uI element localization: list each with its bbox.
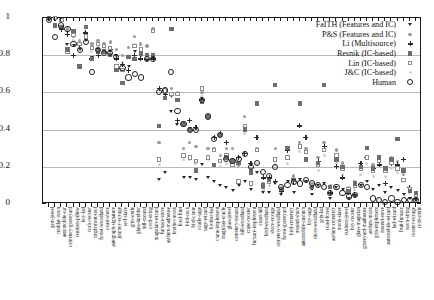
- data-point: [139, 42, 142, 45]
- data-point: [157, 157, 161, 161]
- data-point: [261, 175, 266, 180]
- data-point: [174, 108, 180, 114]
- data-point: [127, 46, 130, 49]
- data-point: [414, 191, 418, 195]
- data-point: [132, 57, 136, 61]
- data-point: [229, 158, 235, 164]
- data-point: [70, 41, 76, 47]
- data-point: [268, 184, 271, 187]
- legend-label: Resnik (IC-based): [337, 49, 404, 58]
- data-point: [125, 74, 131, 80]
- data-point: [390, 167, 393, 170]
- data-point: [206, 155, 210, 159]
- data-point: [175, 98, 179, 102]
- x-tick-mark: [201, 17, 202, 21]
- x-tick-mark: [48, 17, 49, 21]
- data-point: [402, 173, 405, 176]
- legend-item[interactable]: Li (Multisource): [232, 39, 416, 49]
- data-point: [212, 163, 216, 167]
- data-point: [212, 148, 216, 152]
- legend-label: Human: [372, 78, 404, 87]
- legend-item[interactable]: Resnik (IC-based): [232, 49, 416, 59]
- data-point: [317, 169, 320, 172]
- data-point: [138, 56, 143, 61]
- data-point: [286, 162, 289, 165]
- data-point: [261, 191, 265, 194]
- data-point: [163, 96, 167, 100]
- ps-marker-icon: [408, 33, 411, 36]
- data-point: [334, 164, 339, 169]
- legend-item[interactable]: Human: [232, 78, 416, 88]
- data-point: [339, 190, 345, 196]
- x-tick-mark: [79, 17, 80, 21]
- data-point: [273, 179, 278, 184]
- x-tick-mark: [225, 17, 226, 21]
- data-point: [322, 148, 326, 152]
- data-point: [115, 48, 118, 51]
- x-tick-mark: [183, 17, 184, 21]
- data-point: [279, 193, 283, 196]
- data-point: [89, 69, 95, 75]
- lin-marker-icon: [408, 61, 412, 65]
- data-point: [71, 53, 76, 58]
- data-point: [249, 170, 253, 174]
- data-point: [389, 157, 393, 161]
- data-point: [401, 178, 405, 182]
- data-point: [83, 39, 89, 45]
- data-point: [242, 151, 248, 157]
- data-point: [401, 168, 405, 172]
- data-point: [358, 182, 364, 188]
- data-point: [90, 57, 94, 61]
- data-point: [243, 127, 247, 131]
- data-point: [90, 50, 93, 53]
- legend-item[interactable]: FaITH (Features and IC): [232, 20, 416, 30]
- data-point: [157, 141, 160, 144]
- x-tick-mark: [134, 17, 135, 21]
- data-point: [231, 189, 235, 192]
- x-tick-label: cord-smile: [417, 207, 423, 228]
- legend-item[interactable]: Lin (IC-based): [232, 58, 416, 68]
- data-point: [359, 173, 362, 176]
- data-point: [249, 181, 253, 185]
- data-point: [218, 184, 222, 187]
- data-point: [199, 97, 205, 103]
- data-point: [413, 197, 419, 203]
- legend-marker-human-icon: [404, 78, 416, 87]
- data-point: [121, 54, 124, 57]
- data-point: [267, 191, 271, 194]
- data-point: [169, 110, 173, 113]
- data-point: [182, 147, 185, 150]
- data-point: [274, 147, 277, 150]
- data-point: [182, 158, 185, 161]
- data-point: [353, 181, 357, 185]
- data-point: [328, 197, 332, 200]
- data-point: [162, 87, 168, 93]
- data-point: [291, 179, 297, 185]
- data-point: [175, 123, 179, 126]
- data-point: [321, 184, 327, 190]
- data-point: [114, 68, 118, 72]
- legend-item[interactable]: J&C (IC-based): [232, 68, 416, 78]
- data-point: [180, 121, 186, 127]
- data-point: [371, 188, 375, 191]
- data-point: [346, 193, 352, 199]
- x-tick-mark: [164, 17, 165, 21]
- data-point: [126, 55, 130, 59]
- data-point: [175, 118, 180, 123]
- data-point: [297, 180, 303, 186]
- data-point: [243, 180, 247, 183]
- data-point: [248, 164, 254, 170]
- legend-item[interactable]: P&S (Features and IC): [232, 30, 416, 40]
- data-point: [334, 157, 338, 161]
- data-point: [365, 155, 369, 159]
- data-point: [194, 145, 197, 148]
- data-point: [402, 193, 406, 196]
- data-point: [151, 29, 155, 33]
- data-point: [298, 144, 302, 148]
- data-point: [383, 191, 387, 194]
- legend-label: Li (Multisource): [342, 39, 404, 48]
- data-point: [194, 159, 198, 163]
- x-tick-mark: [66, 17, 67, 21]
- data-point: [163, 171, 167, 174]
- legend: FaITH (Features and IC)P&S (Features and…: [232, 19, 418, 88]
